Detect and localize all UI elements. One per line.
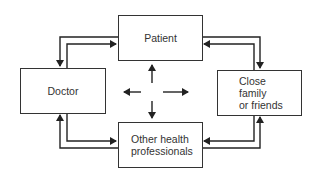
edge-patient-to-family <box>202 37 260 68</box>
node-label: Close family or friends <box>239 75 283 111</box>
edge-other-to-family <box>202 117 260 148</box>
node-label: Doctor <box>48 85 79 97</box>
node-patient: Patient <box>118 15 203 61</box>
node-label: Other health professionals <box>131 133 193 157</box>
edge-doctor-to-patient <box>67 44 116 68</box>
edge-family-to-other <box>204 115 254 141</box>
node-doctor: Doctor <box>20 68 106 114</box>
edge-other-to-doctor <box>60 115 118 148</box>
node-close-family: Close family or friends <box>217 70 302 116</box>
edge-patient-to-doctor <box>60 37 118 66</box>
node-other-health: Other health professionals <box>118 122 203 168</box>
edge-doctor-to-other <box>67 113 116 141</box>
edge-family-to-patient <box>204 44 254 70</box>
node-label: Patient <box>144 32 177 44</box>
